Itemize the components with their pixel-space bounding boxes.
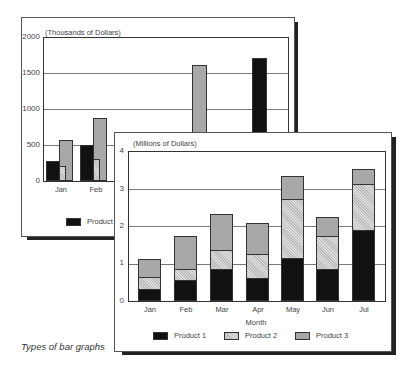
back-ytick-1000: 1000 (20, 104, 40, 113)
back-ytick-2000: 2000 (20, 32, 40, 41)
xlabel-jun: Jun (313, 305, 343, 314)
back-ytick-0: 0 (20, 176, 40, 185)
back-unit-label: (Thousands of Dollars) (45, 28, 121, 37)
legend-product3: Product 3 (295, 331, 348, 340)
front-unit-label: (Millions of Dollars) (133, 139, 197, 148)
front-chart-panel: (Millions of Dollars) 4 3 2 1 0 (114, 132, 392, 352)
legend-swatch-product2 (224, 332, 239, 340)
legend-label: Product 3 (316, 331, 348, 340)
legend-swatch-product1 (153, 332, 168, 340)
front-ytick-1: 1 (104, 258, 124, 267)
bar-mar-product1 (210, 269, 233, 301)
front-ytick-2: 2 (104, 221, 124, 230)
back-bar-feb-product2 (93, 159, 100, 181)
back-bar-jan-product1 (46, 161, 60, 181)
xlabel-feb: Feb (171, 305, 201, 314)
legend-label: Product 1 (174, 331, 206, 340)
back-ytick-1500: 1500 (20, 68, 40, 77)
legend-swatch-product3 (295, 332, 310, 340)
back-bar-jan-product2 (59, 166, 66, 181)
bar-feb-product1 (174, 280, 197, 301)
front-ytick-3: 3 (104, 184, 124, 193)
front-ytick-4: 4 (104, 146, 124, 155)
front-gridline-3 (129, 189, 385, 190)
xlabel-apr: Apr (243, 305, 273, 314)
back-bar-feb-product1 (80, 145, 94, 181)
bar-jan-product1 (138, 289, 161, 301)
xlabel-jul: Jul (349, 305, 379, 314)
xlabel-jan: Jan (135, 305, 165, 314)
front-plot-area (128, 151, 386, 302)
legend-product2: Product 2 (224, 331, 277, 340)
xlabel-mar: Mar (207, 305, 237, 314)
figure-caption: Types of bar graphs (21, 341, 105, 352)
bar-may-product1 (281, 258, 304, 301)
back-ytick-500: 500 (20, 140, 40, 149)
bar-apr-product1 (246, 278, 269, 301)
front-ytick-0: 0 (104, 296, 124, 305)
legend-swatch-product1 (66, 218, 81, 226)
bar-jul-product1 (352, 230, 375, 301)
legend-label: Product 2 (245, 331, 277, 340)
back-xlabel-jan: Jan (46, 185, 76, 194)
bar-jun-product1 (316, 269, 339, 301)
xaxis-title: Month (241, 318, 271, 327)
legend-product1: Product 1 (153, 331, 206, 340)
xlabel-may: May (278, 305, 308, 314)
